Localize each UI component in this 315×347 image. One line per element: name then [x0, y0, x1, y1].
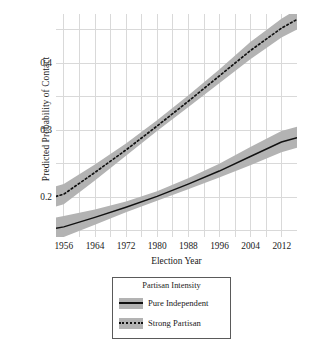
x-tick-label: 2012: [262, 241, 302, 251]
y-axis-tick-labels: 0.4 0.3 0.2: [26, 0, 52, 347]
y-tick-label: 0.3: [30, 125, 52, 135]
legend-item-strong-partisan[interactable]: Strong Partisan: [119, 315, 201, 331]
legend-item-label: Pure Independent: [148, 298, 208, 308]
x-axis-title: Election Year: [56, 256, 297, 266]
grid-horizontal: [56, 30, 297, 231]
legend-title: Partisan Intensity: [113, 281, 230, 290]
legend-item-label: Strong Partisan: [148, 318, 201, 328]
chart-canvas: [56, 14, 297, 237]
chart-figure: Predicted Probability of Contact 0.4 0.3…: [0, 0, 315, 347]
legend-swatch-solid-line-icon: [119, 298, 143, 309]
legend-swatch-dotted-line-icon: [119, 318, 143, 329]
y-tick-label: 0.2: [30, 192, 52, 202]
x-axis-tick-labels: 1956 1964 1972 1980 1988 1996 2004 2012: [56, 241, 297, 255]
chart-legend: Partisan Intensity Pure Independent Stro…: [112, 277, 231, 339]
legend-item-pure-independent[interactable]: Pure Independent: [119, 295, 208, 311]
y-tick-label: 0.4: [30, 58, 52, 68]
plot-area: [56, 14, 297, 237]
